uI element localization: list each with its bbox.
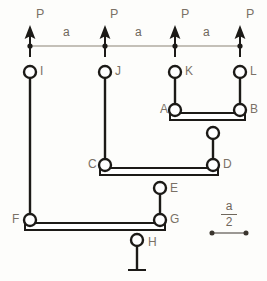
diagram-canvas xyxy=(0,0,267,281)
joint-label-F: F xyxy=(12,213,19,225)
structural-frame-diagram: P P P P a a a I J K L A B C D E F G H a … xyxy=(0,0,267,281)
joint-G xyxy=(154,214,166,226)
joint-label-L: L xyxy=(250,65,257,77)
load-label-3: P xyxy=(181,8,189,21)
joint-label-B: B xyxy=(250,103,258,115)
joint-label-H: H xyxy=(148,236,157,248)
fraction-denominator: 2 xyxy=(212,216,246,229)
beam-C-D xyxy=(100,168,218,175)
load-label-2: P xyxy=(110,8,118,21)
beam-A-B xyxy=(170,113,245,120)
joint-label-E: E xyxy=(170,182,178,194)
joint-label-J: J xyxy=(115,65,121,77)
span-label-2: a xyxy=(135,26,142,38)
joint-K xyxy=(169,66,181,78)
joint-label-D: D xyxy=(223,158,232,170)
joint-L xyxy=(234,66,246,78)
load-label-1: P xyxy=(36,8,44,21)
fraction-numerator: a xyxy=(212,200,246,213)
joint-unlabeled-center xyxy=(207,127,219,139)
joint-C xyxy=(99,159,111,171)
joint-label-G: G xyxy=(170,213,179,225)
joint-D xyxy=(207,159,219,171)
load-label-4: P xyxy=(246,8,254,21)
load-arrow-1 xyxy=(25,25,36,57)
load-arrow-3 xyxy=(170,25,181,57)
span-label-1: a xyxy=(63,26,70,38)
joint-label-I: I xyxy=(40,65,43,77)
joint-label-C: C xyxy=(88,158,97,170)
joint-H xyxy=(131,234,143,246)
joint-B xyxy=(234,104,246,116)
span-label-3: a xyxy=(203,26,210,38)
joint-A xyxy=(169,104,181,116)
joint-F xyxy=(24,214,36,226)
joint-J xyxy=(99,66,111,78)
scale-reference-fraction: a 2 xyxy=(212,200,246,228)
load-arrow-2 xyxy=(100,25,111,57)
joint-label-A: A xyxy=(160,103,168,115)
load-arrow-4 xyxy=(235,25,246,57)
joint-label-K: K xyxy=(185,65,193,77)
joint-E xyxy=(154,182,166,194)
beam-F-G xyxy=(25,223,165,230)
joint-I xyxy=(24,66,36,78)
